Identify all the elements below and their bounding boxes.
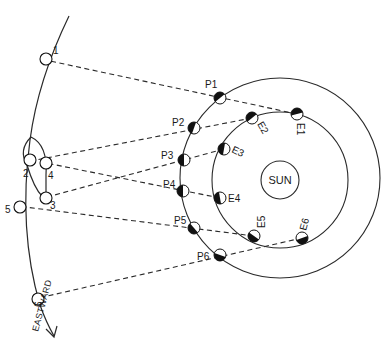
mars-position-p3: P3 — [161, 150, 190, 166]
sky-position-markers: 1 2 4 3 5 6 — [5, 45, 59, 307]
label-sky-2: 2 — [23, 168, 29, 179]
label-sky-4: 4 — [48, 170, 54, 181]
label-e5: E5 — [256, 215, 267, 228]
sky-position-5: 5 — [5, 201, 26, 215]
earth-position-e3: E3 — [217, 142, 246, 159]
label-p4: P4 — [163, 179, 176, 190]
mars-position-p4: P4 — [163, 179, 189, 197]
sky-position-3: 3 — [40, 192, 56, 211]
earth-position-e1: E1 — [290, 107, 306, 136]
sun-label: SUN — [268, 174, 291, 186]
label-sky-3: 3 — [50, 200, 56, 211]
earth-position-markers: E1 E2 E3 E4 E5 — [213, 107, 311, 246]
sky-position-4: 4 — [40, 157, 54, 181]
mars-position-markers: P1 P2 P3 P4 P5 — [161, 79, 226, 263]
sight-line-1 — [50, 61, 297, 114]
label-sky-5: 5 — [5, 204, 11, 215]
label-p1: P1 — [205, 79, 218, 90]
mars-position-p2: P2 — [172, 117, 200, 134]
label-e6: E6 — [297, 216, 311, 231]
label-e4: E4 — [228, 193, 241, 204]
diagram-canvas: SUN P1 P2 — [0, 0, 388, 345]
label-p2: P2 — [172, 117, 185, 128]
mars-position-p5: P5 — [174, 215, 200, 236]
label-e2: E2 — [255, 120, 271, 136]
earth-position-e4: E4 — [213, 192, 241, 205]
sky-position-2: 2 — [23, 154, 36, 179]
sight-line-3 — [51, 149, 224, 196]
label-e1: E1 — [295, 123, 306, 136]
label-p3: P3 — [161, 150, 174, 161]
retrograde-motion-diagram: SUN P1 P2 — [0, 0, 388, 345]
label-p6: P6 — [197, 251, 210, 262]
sky-position-1: 1 — [40, 45, 59, 65]
mars-position-p1: P1 — [205, 79, 226, 104]
sight-line-4 — [51, 164, 220, 198]
label-e3: E3 — [230, 144, 246, 159]
label-p5: P5 — [174, 215, 187, 226]
label-sky-1: 1 — [53, 45, 59, 56]
sight-line-6 — [43, 238, 302, 297]
